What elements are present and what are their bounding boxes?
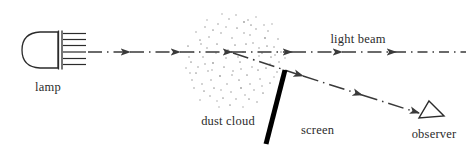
lamp-housing	[22, 32, 58, 68]
scattered-segment-2	[303, 76, 362, 95]
dust-cloud-label: dust cloud	[201, 114, 255, 128]
screen-label: screen	[301, 123, 335, 137]
lamp-icon	[22, 31, 86, 70]
dust-cloud-shape	[185, 13, 285, 107]
scattered-segment-1	[233, 53, 303, 76]
screen-bar	[266, 70, 285, 144]
observer-label: observer	[412, 127, 457, 141]
scattered-ray	[233, 53, 419, 113]
diagram-canvas: lamp dust cloud light beam screen observ…	[0, 0, 475, 149]
light-beam-label: light beam	[330, 32, 385, 46]
lamp-emission-hatch	[63, 34, 86, 65]
optics-diagram: lamp dust cloud light beam screen observ…	[0, 0, 475, 149]
scattered-segment-3	[362, 95, 419, 113]
observer-eye-icon	[419, 101, 444, 118]
lamp-label: lamp	[35, 80, 61, 94]
